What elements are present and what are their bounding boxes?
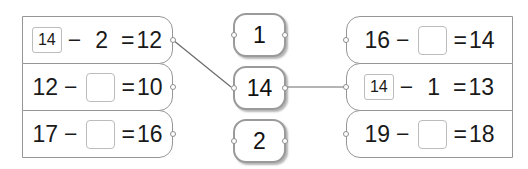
equation-card-left-row-2[interactable]: 12 − = 10 [22, 63, 173, 111]
minus-operator: − [59, 76, 82, 99]
minus-operator: − [63, 29, 86, 52]
minus-operator: − [59, 123, 82, 146]
result-value: 14 [468, 29, 496, 52]
blank-answer-box[interactable] [418, 26, 447, 55]
answer-chip-2[interactable]: 2 [233, 119, 286, 163]
equation-card-left-row-3[interactable]: 17 − = 16 [22, 110, 173, 158]
equation-expression: 14 − 2 = 12 [32, 27, 163, 53]
matching-exercise-canvas: 14 − 2 = 12 12 − = 10 17 − = [0, 0, 528, 169]
connector-nub-right[interactable] [282, 32, 288, 38]
result-value: 18 [468, 123, 496, 146]
blank-answer-box[interactable] [86, 73, 115, 102]
equals-sign: = [450, 123, 468, 146]
minuend-value: 12 [31, 76, 59, 99]
equation-card-right-row-3[interactable]: 19 − = 18 [346, 110, 513, 158]
equation-expression: 12 − = 10 [31, 73, 163, 102]
minus-operator: − [391, 123, 414, 146]
result-value: 10 [136, 76, 164, 99]
equation-expression: 14 − 1 = 13 [364, 74, 495, 100]
answer-chip-label: 14 [247, 77, 273, 100]
connector-nub-right[interactable] [170, 37, 176, 43]
equals-sign: = [118, 123, 136, 146]
connector-nub-left[interactable] [343, 84, 349, 90]
connector-nub-left[interactable] [231, 138, 237, 144]
equals-sign: = [450, 29, 468, 52]
connector-nub-right[interactable] [170, 131, 176, 137]
connector-nub-left[interactable] [231, 85, 237, 91]
blank-answer-box[interactable] [86, 120, 115, 149]
answer-chip-label: 2 [253, 130, 266, 153]
equation-card-right-row-2[interactable]: 14 − 1 = 13 [346, 63, 513, 111]
minuend-value: 16 [363, 29, 391, 52]
prefilled-token-box[interactable]: 14 [364, 74, 394, 100]
connector-nub-right[interactable] [170, 84, 176, 90]
equation-expression: 19 − = 18 [363, 120, 495, 149]
equation-expression: 17 − = 16 [31, 120, 163, 149]
minuend-value: 19 [363, 123, 391, 146]
connector-nub-left[interactable] [231, 32, 237, 38]
answer-chip-1[interactable]: 1 [233, 13, 286, 57]
connector-nub-right[interactable] [282, 85, 288, 91]
minus-operator: − [395, 76, 418, 99]
prefilled-token-box[interactable]: 14 [32, 27, 62, 53]
blank-answer-box[interactable] [418, 120, 447, 149]
equals-sign: = [118, 76, 136, 99]
equals-sign: = [449, 76, 467, 99]
answer-chip-14[interactable]: 14 [233, 66, 286, 110]
equation-card-left-row-1[interactable]: 14 − 2 = 12 [22, 16, 173, 64]
right-equation-column: 16 − = 14 14 − 1 = 13 19 − = [346, 16, 513, 158]
equation-expression: 16 − = 14 [363, 26, 495, 55]
result-value: 16 [136, 123, 164, 146]
subtrahend-value: 1 [418, 76, 449, 99]
left-equation-column: 14 − 2 = 12 12 − = 10 17 − = [22, 16, 173, 158]
connector-nub-right[interactable] [282, 138, 288, 144]
answer-chip-label: 1 [253, 24, 266, 47]
minus-operator: − [391, 29, 414, 52]
result-value: 13 [468, 76, 496, 99]
answer-chip-column: 1 14 2 [233, 13, 286, 163]
subtrahend-value: 2 [86, 29, 117, 52]
equals-sign: = [117, 29, 135, 52]
result-value: 12 [136, 29, 164, 52]
connector-nub-left[interactable] [343, 37, 349, 43]
minuend-value: 17 [31, 123, 59, 146]
connector-nub-left[interactable] [343, 131, 349, 137]
equation-card-right-row-1[interactable]: 16 − = 14 [346, 16, 513, 64]
connector-line-left-row-1-to-chip-14 [173, 40, 231, 87]
